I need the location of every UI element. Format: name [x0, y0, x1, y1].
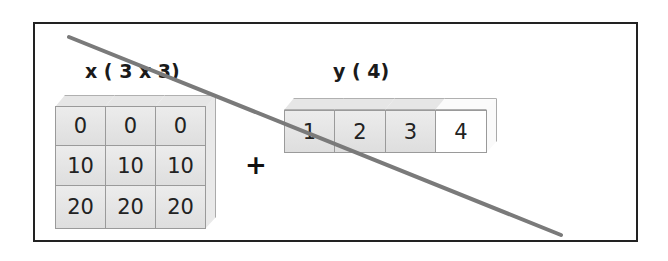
strike-through-line [0, 0, 668, 261]
